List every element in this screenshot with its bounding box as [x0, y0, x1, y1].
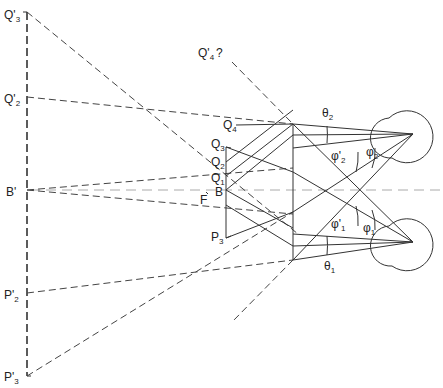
label-b: B	[215, 185, 223, 199]
ray-e1-1	[293, 242, 413, 260]
eye-lower	[370, 219, 433, 271]
ray-q4p	[232, 62, 293, 124]
label-q3: Q3	[211, 137, 225, 153]
label-f: F	[200, 193, 207, 207]
ray-p2p	[27, 260, 293, 293]
arc-phi1p	[356, 206, 358, 226]
label-q4-prime: Q'4?	[198, 46, 223, 62]
arc-theta1	[327, 236, 328, 255]
label-phi2: φ2	[366, 145, 379, 161]
label-q2: Q2	[211, 155, 225, 171]
label-q2-prime: Q'2	[4, 92, 21, 108]
label-phi1: φ1	[363, 221, 376, 237]
label-theta2: θ2	[322, 106, 334, 122]
ray-b-upper	[226, 135, 293, 190]
label-p3-prime: P'3	[4, 370, 19, 386]
ray-p3p	[27, 212, 293, 376]
ray-q2p	[27, 97, 293, 124]
ray-lower-extension	[233, 260, 293, 321]
ray-bp-upper	[27, 168, 293, 190]
label-p3: P3	[211, 230, 224, 246]
ray-e2-1	[293, 124, 413, 134]
ray-p3	[226, 212, 293, 238]
arc-phi2p	[356, 152, 358, 172]
ray-q3p	[27, 12, 298, 234]
label-q3-prime: Q'3	[4, 8, 21, 24]
ray-bp-lower	[27, 190, 293, 214]
label-p2-prime: P'2	[4, 288, 19, 304]
stereo-vision-diagram: Q'3 Q'2 B' P'2 P'3 Q'4? Q4 Q3 Q2 Q1 B F …	[0, 0, 443, 388]
label-phi2-prime: φ'2	[331, 149, 346, 165]
eye-upper	[370, 111, 433, 163]
label-q4: Q4	[223, 118, 237, 134]
label-phi1-prime: φ'1	[331, 217, 346, 233]
ray-e2-2	[293, 134, 413, 135]
ray-e1-2	[293, 242, 413, 246]
label-theta1: θ1	[324, 259, 336, 275]
label-b-prime: B'	[6, 185, 16, 199]
q4-line	[236, 124, 293, 125]
arc-phi1	[372, 210, 375, 230]
